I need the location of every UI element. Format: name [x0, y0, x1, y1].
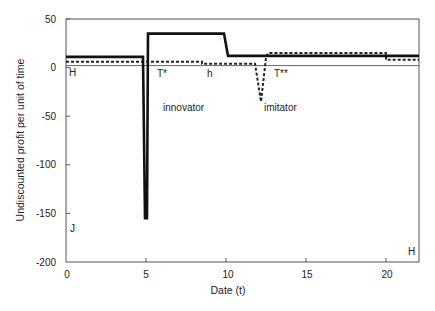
y-axis-title: Undiscounted profit per unit of time [14, 58, 26, 221]
x-tick-label: 15 [301, 269, 313, 280]
x-tick-label: 20 [381, 269, 393, 280]
y-axis: 50 0 -50 -100 -150 -200 [36, 14, 70, 268]
x-tick-label: 0 [64, 269, 70, 280]
y-tick-label: 50 [45, 14, 57, 25]
annotation-h: h [207, 68, 213, 79]
annotation-H-bottom: H [408, 246, 415, 257]
y-tick-label: 0 [50, 62, 56, 73]
chart: 50 0 -50 -100 -150 -200 0 5 10 15 20 Dat… [0, 0, 435, 311]
annotation-T-star-star: T** [274, 68, 288, 79]
imitator-label: imitator [264, 102, 297, 113]
x-axis: 0 5 10 15 20 [64, 258, 393, 280]
y-tick-label: -150 [36, 208, 56, 219]
y-tick-label: -200 [36, 257, 56, 268]
y-tick-label: -50 [42, 111, 57, 122]
y-tick-label: -100 [36, 159, 56, 170]
x-axis-title: Date (t) [210, 284, 245, 296]
annotation-T-star: T* [157, 68, 167, 79]
imitator-series [66, 53, 419, 102]
innovator-label: innovator [163, 102, 205, 113]
annotation-H: H [69, 67, 76, 78]
annotation-J: J [70, 223, 75, 234]
x-tick-label: 10 [222, 269, 234, 280]
x-tick-label: 5 [143, 269, 149, 280]
